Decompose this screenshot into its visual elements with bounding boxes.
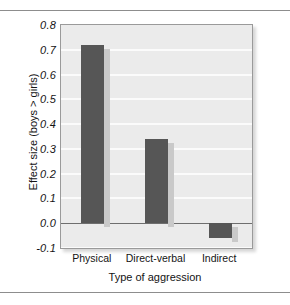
x-axis-tick-label: Physical <box>60 252 124 265</box>
page-rule-top <box>0 10 290 11</box>
gridline <box>61 247 252 249</box>
x-axis-tick-label: Direct-verbal <box>124 252 188 265</box>
x-axis-tick-label: Indirect <box>187 252 251 265</box>
bar-shadow <box>104 49 110 227</box>
y-axis-title: Effect size (boys > girls) <box>23 27 39 237</box>
bar <box>209 223 232 238</box>
bar <box>81 45 104 223</box>
bar-shadow <box>232 227 238 242</box>
x-axis-title-text: Type of aggression <box>109 271 202 283</box>
bar-shadow <box>168 143 174 227</box>
y-axis-title-text: Effect size (boys > girls) <box>27 74 39 191</box>
page-rule-bottom <box>0 292 290 293</box>
bar <box>145 139 168 223</box>
x-axis-title: Type of aggression <box>40 270 270 284</box>
x-axis-tick-labels: PhysicalDirect-verbalIndirect <box>60 252 253 268</box>
plot-area <box>60 24 253 249</box>
y-axis-tick-label: -0.1 <box>4 243 56 254</box>
bar-chart-figure: 0.80.70.60.50.40.30.20.10.0-0.1 Effect s… <box>0 12 290 290</box>
